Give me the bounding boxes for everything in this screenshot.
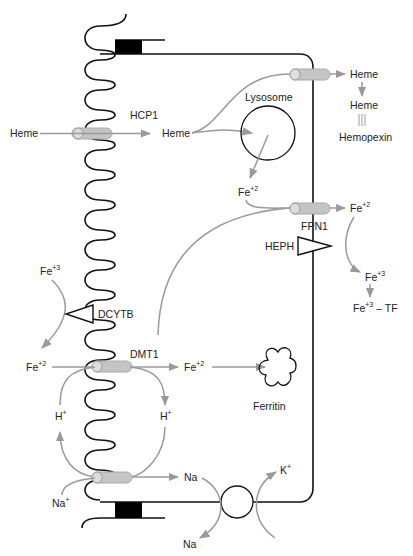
heph-enzyme [298,237,331,255]
na-cyto-label: Na [184,471,198,483]
heph-label: HEPH [265,240,294,252]
fe-lyso-label: Fe+2 [238,185,258,198]
k-out-label: K+ [280,463,291,476]
hemopexin-label: Hemopexin [339,131,392,143]
tight-junction-bottom [115,502,142,518]
dmt1-label: DMT1 [130,348,159,360]
iron-absorption-diagram: Heme HCP1 Heme Heme Heme Hemopexin Lysos… [0,0,413,556]
heme-cyto-label: Heme [162,127,190,139]
fe2-cyto-label: Fe+2 [184,360,204,373]
fe3-tf-label: Fe+3– TF [353,301,398,314]
hcp1-label: HCP1 [130,109,158,121]
heme-lumen-label: Heme [10,127,38,139]
apical-membrane [85,14,126,500]
dcytb-enzyme [66,305,93,323]
lysosome-label: Lysosome [245,91,293,103]
tight-junction-top [115,40,142,54]
fpn1-label: FPN1 [301,220,328,232]
heme-out-label: Heme [350,68,378,80]
h-left-label: H+ [55,409,67,422]
na-out-label: Na [183,538,197,550]
fe2-lumen-label: Fe+2 [26,360,46,373]
h-right-label: H+ [160,409,172,422]
fe3-lumen-label: Fe+3 [40,264,60,277]
na-lumen-label: Na+ [52,496,70,509]
dcytb-label: DCYTB [98,308,134,320]
fe3-out-label: Fe+3 [365,270,385,283]
basolateral-membrane [100,54,313,502]
fe-out-label: Fe+2 [350,201,370,214]
na-k-pump [221,486,253,518]
ferritin-label: Ferritin [253,400,286,412]
heme-bound-label: Heme [350,99,378,111]
